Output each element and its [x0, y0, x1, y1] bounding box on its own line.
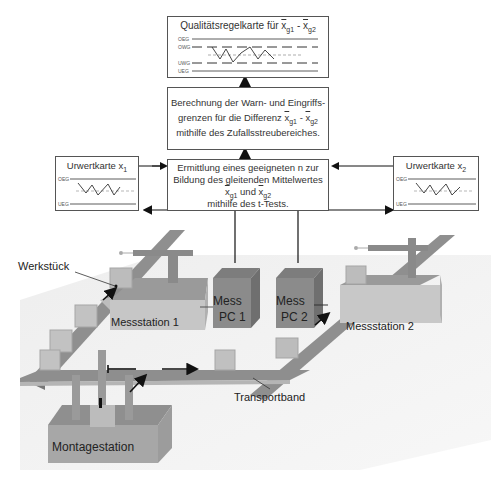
- mess-pc-1-label-line2: PC 1: [219, 310, 246, 324]
- urwertkarte-2-chart: [394, 157, 480, 212]
- production-diagram: Qualitätsregelkarte für xg1 - xg2 OEG OW…: [0, 0, 491, 484]
- middle-line-3: mithilfe des Zufallsstreubereiches.: [168, 127, 328, 139]
- montagestation-label: Montagestation: [52, 440, 134, 454]
- lower-line-2: Bildung des gleitenden Mittelwertes: [168, 174, 328, 186]
- transportband-label: Transportband: [234, 391, 305, 403]
- werkstueck-label: Werkstück: [18, 260, 69, 272]
- middle-line-2: grenzen für die Differenz xg1 - xg2: [168, 112, 328, 128]
- mess-pc-1-label-line1: Mess: [213, 294, 242, 308]
- lower-line-1: Ermittlung eines geeigneten n zur: [168, 162, 328, 174]
- messstation-2-label: Messstation 2: [346, 320, 414, 332]
- mini-control-chart: [168, 17, 330, 79]
- messstation-1-label: Messstation 1: [111, 316, 179, 328]
- quality-control-chart-box: Qualitätsregelkarte für xg1 - xg2 OEG OW…: [167, 16, 329, 78]
- urwertkarte-1-chart: [56, 157, 140, 212]
- mess-pc-2-label-line2: PC 2: [281, 310, 308, 324]
- mess-pc-2-label-line1: Mess: [276, 294, 305, 308]
- warning-limits-box: Berechnung der Warn- und Eingriffs- gren…: [167, 87, 329, 150]
- urwertkarte-1: Urwertkarte x1 OEG UEG: [55, 156, 139, 211]
- lower-line-4: mithilfe des t-Tests.: [168, 198, 328, 210]
- urwertkarte-2: Urwertkarte x2 OEG UEG: [393, 156, 479, 211]
- middle-line-1: Berechnung der Warn- und Eingriffs-: [168, 97, 328, 109]
- sample-size-box: Ermittlung eines geeigneten n zur Bildun…: [167, 159, 329, 211]
